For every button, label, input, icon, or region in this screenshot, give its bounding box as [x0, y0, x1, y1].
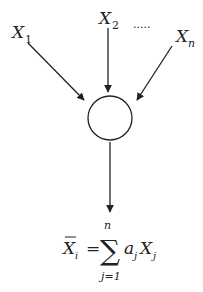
svg-text:X: X	[10, 22, 25, 42]
input-xn-label: X n	[174, 26, 195, 50]
svg-text:∑: ∑	[100, 234, 120, 267]
arrow-xn	[137, 46, 172, 100]
svg-text:X: X	[138, 238, 153, 258]
arrow-x1	[28, 43, 84, 100]
svg-text:X: X	[61, 238, 76, 258]
svg-text:=: =	[86, 238, 100, 258]
svg-text:a: a	[124, 238, 134, 258]
svg-text:n: n	[188, 37, 195, 50]
svg-text:i: i	[75, 250, 78, 261]
svg-text:X: X	[174, 26, 189, 46]
svg-text:j=1: j=1	[98, 270, 121, 283]
svg-text:2: 2	[112, 19, 119, 32]
output-formula: X i = n ∑ j=1 a j X j	[61, 219, 156, 283]
ellipsis: .....	[133, 18, 150, 31]
svg-text:X: X	[97, 8, 112, 28]
svg-text:n: n	[104, 219, 111, 232]
neuron-diagram: X 1 X 2 ..... X n X i = n ∑ j=1 a j X j	[0, 0, 203, 292]
neuron-node	[88, 96, 132, 140]
input-x1-label: X 1	[10, 22, 32, 46]
